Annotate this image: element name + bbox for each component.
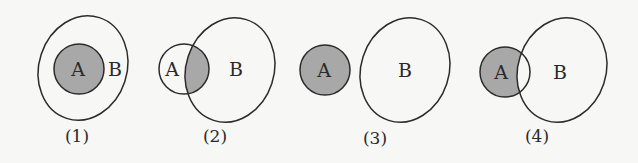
diagram-caption: (3): [363, 128, 387, 148]
diagram-caption: (4): [525, 126, 549, 146]
set-b-label: B: [229, 58, 243, 80]
set-a-label: A: [70, 58, 85, 80]
diagram-caption: (2): [203, 126, 227, 146]
set-b-label: B: [553, 61, 567, 83]
set-b-label: B: [398, 59, 412, 81]
set-b-label: B: [108, 58, 122, 80]
diagram-1: A B (1): [25, 4, 141, 146]
set-a-label: A: [164, 58, 179, 80]
diagram-3: A B (3): [300, 6, 463, 148]
set-a-label: A: [493, 61, 508, 83]
venn-diagram-figure: A B (1) A B (2) A B (3) A B (4): [0, 0, 638, 163]
diagram-caption: (1): [65, 126, 89, 146]
diagram-2: A B (2): [159, 6, 288, 146]
set-a-label: A: [316, 59, 331, 81]
diagram-4: A B (4): [480, 6, 620, 146]
